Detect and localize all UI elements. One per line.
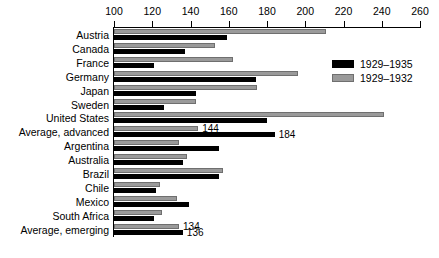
- chart-row: Mexico: [0, 195, 439, 209]
- bar-group: [114, 111, 434, 125]
- category-label: United States: [0, 111, 109, 125]
- x-axis-tick: [344, 21, 345, 27]
- bar-1929-1935: [114, 49, 185, 54]
- chart-row: Canada: [0, 42, 439, 56]
- bar-1929-1935: [114, 105, 164, 110]
- legend-item-black: 1929–1935: [332, 57, 413, 70]
- bar-1929-1935: [114, 202, 189, 207]
- chart-legend: 1929–1935 1929–1932: [332, 57, 413, 85]
- bar-1929-1932: [114, 154, 187, 159]
- chart-row: Sweden: [0, 98, 439, 112]
- bar-1929-1932: [114, 140, 179, 145]
- category-label: Germany: [0, 70, 109, 84]
- bar-value-label: 184: [275, 131, 296, 138]
- bar-chart: 100120140160180200220240260 AustriaCanad…: [0, 0, 439, 258]
- category-label: Average, emerging: [0, 223, 109, 237]
- x-axis-tick-label: 240: [362, 5, 402, 17]
- category-label: Chile: [0, 181, 109, 195]
- x-axis-tick: [229, 21, 230, 27]
- chart-row: Argentina: [0, 139, 439, 153]
- x-axis-tick: [305, 21, 306, 27]
- chart-row: Australia: [0, 153, 439, 167]
- bar-1929-1935: [114, 118, 267, 123]
- x-axis-tick: [382, 21, 383, 27]
- bar-1929-1932: [114, 196, 177, 201]
- chart-row: Japan: [0, 84, 439, 98]
- bar-1929-1932: [114, 126, 198, 131]
- x-axis-tick: [191, 21, 192, 27]
- bar-1929-1932: [114, 168, 223, 173]
- chart-row: Brazil: [0, 167, 439, 181]
- x-axis-tick: [152, 21, 153, 27]
- x-axis-tick-label: 180: [247, 5, 287, 17]
- bar-group: 144184: [114, 125, 434, 139]
- x-axis-tick-label: 100: [94, 5, 134, 17]
- bar-1929-1935: [114, 35, 227, 40]
- bar-1929-1932: [114, 29, 326, 34]
- bar-1929-1935: [114, 77, 256, 82]
- category-label: France: [0, 56, 109, 70]
- x-axis-tick-label: 200: [285, 5, 325, 17]
- x-axis-tick-label: 120: [132, 5, 172, 17]
- bar-1929-1935: [114, 146, 219, 151]
- category-label: Brazil: [0, 167, 109, 181]
- legend-swatch-black-icon: [332, 60, 354, 68]
- x-axis-tick: [267, 21, 268, 27]
- category-label: Sweden: [0, 98, 109, 112]
- bar-group: [114, 209, 434, 223]
- chart-row: United States: [0, 111, 439, 125]
- bar-group: [114, 195, 434, 209]
- category-label: Australia: [0, 153, 109, 167]
- bar-1929-1932: [114, 57, 233, 62]
- bar-value-label: 136: [183, 229, 204, 236]
- chart-row: Average, advanced144184: [0, 125, 439, 139]
- chart-row: Austria: [0, 28, 439, 42]
- bar-1929-1935: [114, 188, 156, 193]
- category-label: Canada: [0, 42, 109, 56]
- legend-label-black: 1929–1935: [360, 58, 413, 70]
- legend-item-gray: 1929–1932: [332, 71, 413, 84]
- bar-1929-1932: [114, 43, 215, 48]
- x-axis-tick-label: 220: [324, 5, 364, 17]
- x-axis-tick-label: 160: [209, 5, 249, 17]
- bar-1929-1935: [114, 160, 183, 165]
- bar-1929-1932: [114, 85, 257, 90]
- bar-1929-1932: [114, 182, 160, 187]
- bar-1929-1932: [114, 224, 179, 229]
- legend-label-gray: 1929–1932: [360, 72, 413, 84]
- legend-swatch-gray-icon: [332, 74, 354, 82]
- bar-1929-1935: [114, 91, 196, 96]
- category-label: Mexico: [0, 195, 109, 209]
- bar-1929-1932: [114, 210, 162, 215]
- category-label: Japan: [0, 84, 109, 98]
- x-axis-tick: [420, 21, 421, 27]
- bar-group: 134136: [114, 223, 434, 237]
- bar-1929-1932: [114, 112, 384, 117]
- x-axis-tick-label: 140: [171, 5, 211, 17]
- bar-group: [114, 167, 434, 181]
- bar-group: [114, 84, 434, 98]
- chart-row: Average, emerging134136: [0, 223, 439, 237]
- bar-1929-1935: [114, 230, 183, 235]
- bar-1929-1935: [114, 216, 154, 221]
- bar-group: [114, 28, 434, 42]
- bar-group: [114, 181, 434, 195]
- bar-value-label: 144: [198, 125, 219, 132]
- bar-1929-1935: [114, 132, 275, 137]
- bar-group: [114, 139, 434, 153]
- bar-group: [114, 153, 434, 167]
- x-axis-tick-label: 260: [400, 5, 439, 17]
- chart-row: Chile: [0, 181, 439, 195]
- category-label: South Africa: [0, 209, 109, 223]
- bar-group: [114, 98, 434, 112]
- bar-1929-1932: [114, 99, 196, 104]
- bar-group: [114, 42, 434, 56]
- bar-1929-1932: [114, 71, 298, 76]
- category-label: Argentina: [0, 139, 109, 153]
- chart-row: South Africa: [0, 209, 439, 223]
- bar-1929-1935: [114, 63, 154, 68]
- bar-1929-1935: [114, 174, 219, 179]
- category-label: Average, advanced: [0, 125, 109, 139]
- x-axis-tick: [114, 21, 115, 27]
- category-label: Austria: [0, 28, 109, 42]
